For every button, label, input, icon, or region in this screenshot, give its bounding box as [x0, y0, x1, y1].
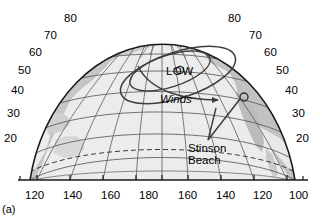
panel-tag: (a)	[2, 203, 15, 215]
annotation-stinson-line1: Stinson	[188, 142, 226, 154]
lat-label-left-60: 60	[29, 46, 42, 58]
japan-arc	[46, 92, 60, 103]
lon-label-140w: 140	[216, 189, 235, 201]
lat-label-right-60: 60	[264, 46, 277, 58]
lon-label-160e: 160	[101, 189, 120, 201]
lat-label-left-20: 20	[4, 132, 17, 144]
lat-label-right-50: 50	[276, 64, 289, 76]
lat-label-right-80: 80	[228, 12, 241, 24]
lon-label-120e: 120	[25, 189, 44, 201]
map-figure: 80 70 60 50 40 30 20 80 70 60 50 40 30 2…	[0, 0, 325, 222]
lat-label-left-40: 40	[11, 84, 24, 96]
lat-label-left-50: 50	[18, 64, 31, 76]
lat-label-right-70: 70	[249, 29, 262, 41]
lat-label-left-30: 30	[7, 107, 20, 119]
lat-label-right-20: 20	[296, 132, 309, 144]
lon-label-180: 180	[139, 189, 158, 201]
lat-label-right-40: 40	[285, 84, 298, 96]
lon-label-100w: 100	[289, 189, 308, 201]
annotation-stinson-line2: Beach	[188, 154, 221, 166]
annotation-winds: Winds	[160, 93, 192, 105]
lat-label-right-30: 30	[292, 107, 305, 119]
annotation-low: LOW	[166, 65, 193, 77]
lon-label-140e: 140	[63, 189, 82, 201]
lon-label-160w: 160	[178, 189, 197, 201]
lon-label-120w: 120	[253, 189, 272, 201]
lat-label-left-70: 70	[44, 29, 57, 41]
lat-label-left-80: 80	[64, 12, 77, 24]
